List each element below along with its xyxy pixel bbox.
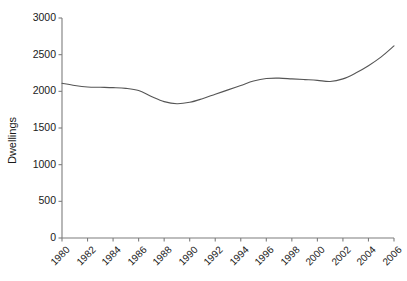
y-axis-title: Dwellings [2,0,22,281]
y-axis-tick-label: 2000 [33,84,56,96]
y-axis-tick-label: 1500 [33,121,56,133]
dwellings-line-chart: Dwellings 050010001500200025003000 19801… [0,0,407,281]
y-axis-tick-label: 500 [38,194,56,206]
chart-axes [59,18,395,242]
y-axis-tick-label: 3000 [33,11,56,23]
chart-canvas [0,0,407,281]
data-line-dwellings [62,46,394,104]
y-axis-tick-label: 2500 [33,48,56,60]
data-series-group [62,46,394,104]
y-axis-tick-label: 1000 [33,158,56,170]
y-axis-tick-label: 0 [50,231,56,243]
